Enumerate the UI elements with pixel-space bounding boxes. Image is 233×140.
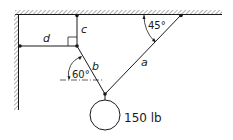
pin-joint xyxy=(75,44,79,48)
pin-joint xyxy=(75,14,79,18)
cable-a xyxy=(105,15,181,94)
label-c: c xyxy=(81,23,87,36)
arrowhead-icon xyxy=(68,76,71,80)
label-d: d xyxy=(43,32,51,45)
ceiling xyxy=(15,10,222,15)
label-weight: 150 lb xyxy=(124,111,162,125)
left-wall xyxy=(14,14,19,110)
label-angle-60: 60° xyxy=(72,69,90,80)
label-angle-45: 45° xyxy=(148,20,166,31)
pin-joint xyxy=(179,14,183,18)
pin-joint xyxy=(18,44,22,48)
label-b: b xyxy=(92,60,99,73)
right-angle-marker xyxy=(68,37,77,46)
arrowhead-icon xyxy=(143,15,146,19)
statics-diagram: c d b a 45° 60° 150 lb xyxy=(0,0,233,140)
weight-ball xyxy=(90,100,120,130)
label-a: a xyxy=(141,56,148,69)
